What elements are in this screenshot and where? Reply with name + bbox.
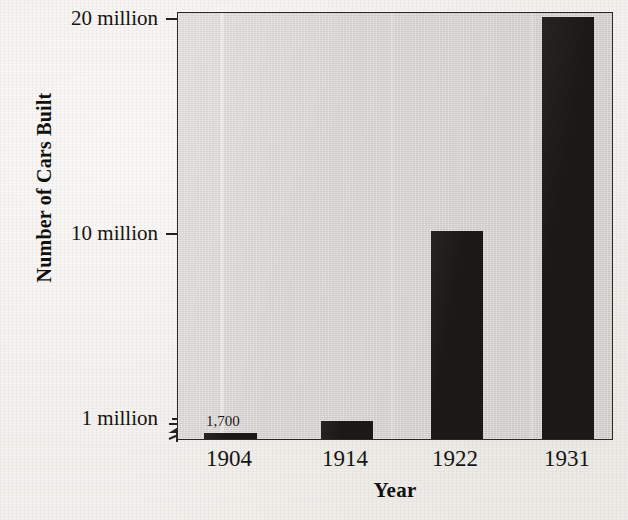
bar-1914 (321, 421, 373, 439)
y-tick-label-20-million: 20 million (36, 8, 158, 29)
x-tick-label-1904: 1904 (174, 446, 284, 472)
cropped-title-remnant (300, 0, 520, 6)
scan-streak-left (220, 13, 224, 439)
y-tick-label-1-million: 1 million (36, 408, 158, 429)
plot-area: 1,700 (177, 12, 613, 440)
bar-1922 (431, 231, 483, 439)
bar-1904 (204, 433, 257, 439)
y-axis-title: Number of Cars Built (33, 58, 56, 318)
x-tick-label-1931: 1931 (512, 446, 622, 472)
scan-streak-mid (390, 13, 394, 439)
x-tick-label-1914: 1914 (290, 446, 400, 472)
bar-chart: 20 million 10 million 1 million 1,700 19… (0, 0, 628, 520)
scan-streak-right (530, 13, 534, 439)
bar-1931 (542, 17, 594, 439)
x-axis-title: Year (177, 478, 613, 503)
bar-value-label-1904: 1,700 (206, 414, 240, 429)
x-tick-label-1922: 1922 (400, 446, 510, 472)
